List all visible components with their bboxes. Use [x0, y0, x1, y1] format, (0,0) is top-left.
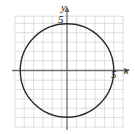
y-axis-tick-label-5: 5: [58, 14, 64, 25]
grid-lines: [15, 16, 123, 127]
y-axis: [64, 6, 69, 130]
x-axis-tick-label-5: 5: [111, 69, 117, 80]
x-axis-label: x: [124, 65, 129, 76]
graph-figure: y 5 x 5: [0, 0, 135, 134]
coordinate-plot: [0, 0, 135, 134]
y-axis-label: y: [61, 2, 66, 13]
